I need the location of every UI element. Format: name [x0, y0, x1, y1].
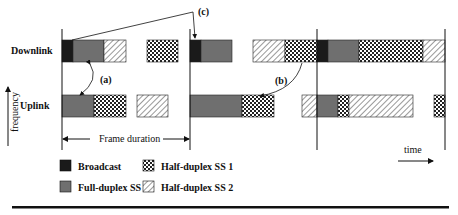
uplink-block-half1: [242, 95, 274, 117]
legend-broadcast-label: Broadcast: [78, 161, 122, 172]
downlink-block-broadcast: [317, 40, 328, 62]
frequency-axis: frequency: [8, 87, 20, 146]
legend-broadcast-swatch: [60, 160, 71, 171]
frame-duration-label: Frame duration: [99, 133, 160, 144]
uplink-row: [62, 95, 445, 117]
downlink-row: [62, 40, 445, 62]
uplink-block-half1: [338, 95, 349, 117]
uplink-block-half2: [349, 95, 413, 117]
downlink-block-broadcast: [62, 40, 73, 62]
uplink-block-half2: [302, 95, 317, 117]
downlink-label: Downlink: [11, 45, 53, 56]
uplink-block-full: [62, 95, 94, 117]
annotation-a: (a): [80, 64, 112, 95]
downlink-block-half1: [147, 40, 178, 62]
frame-structure-diagram: Downlink Uplink frequency Frame duration…: [0, 0, 458, 215]
uplink-block-full: [190, 95, 242, 117]
time-axis: time: [398, 144, 433, 161]
annotation-b: (b): [260, 63, 302, 96]
legend-half2-swatch: [143, 181, 154, 192]
uplink-block-half1: [434, 95, 445, 117]
downlink-block-full: [328, 40, 359, 62]
annotation-a-label: (a): [100, 74, 112, 86]
uplink-block-full: [317, 95, 338, 117]
downlink-block-broadcast: [190, 40, 201, 62]
uplink-label: Uplink: [20, 100, 50, 111]
legend: Broadcast Half-duplex SS 1 Full-duplex S…: [60, 160, 233, 193]
downlink-block-full: [73, 40, 104, 62]
legend-half2-label: Half-duplex SS 2: [161, 182, 233, 193]
downlink-block-half1: [359, 40, 423, 62]
downlink-block-half2: [423, 40, 445, 62]
annotation-c: (c): [72, 6, 209, 40]
downlink-block-half2: [104, 40, 126, 62]
annotation-b-label: (b): [275, 75, 287, 87]
legend-half1-label: Half-duplex SS 1: [161, 161, 233, 172]
legend-full-swatch: [60, 181, 71, 192]
downlink-block-full: [201, 40, 232, 62]
frequency-label: frequency: [9, 92, 20, 132]
uplink-block-half2: [137, 95, 168, 117]
annotation-c-label: (c): [198, 6, 209, 18]
frame-duration-indicator: Frame duration: [63, 133, 189, 144]
legend-full-label: Full-duplex SS: [78, 182, 142, 193]
time-label: time: [404, 144, 422, 155]
downlink-block-half1: [285, 40, 317, 62]
uplink-block-half1: [94, 95, 126, 117]
downlink-block-half2: [253, 40, 285, 62]
legend-half1-swatch: [143, 160, 154, 171]
bottom-rule: [12, 206, 449, 209]
